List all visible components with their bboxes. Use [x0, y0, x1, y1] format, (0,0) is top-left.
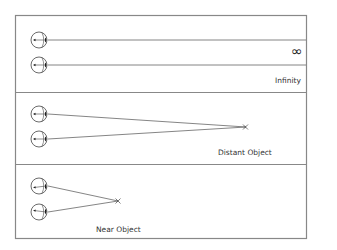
eye-icon [31, 57, 47, 73]
infinity-symbol: ∞ [291, 44, 303, 58]
vision-convergence-diagram [0, 0, 337, 250]
sight-line [48, 114, 246, 127]
label-distant-object: Distant Object [218, 148, 272, 157]
sight-line [48, 127, 246, 139]
diagram-frame [16, 16, 307, 239]
label-infinity: Infinity [275, 76, 301, 85]
eye-icon [31, 106, 47, 122]
sight-line [48, 186, 118, 201]
eye-icon [31, 204, 47, 220]
label-near-object: Near Object [96, 225, 141, 234]
eye-icon [31, 178, 47, 194]
panel-infinity [31, 32, 306, 73]
sight-line [48, 201, 118, 212]
eye-icon [31, 32, 47, 48]
panel-distant [31, 106, 248, 147]
eye-icon [31, 131, 47, 147]
panel-near [31, 178, 121, 220]
